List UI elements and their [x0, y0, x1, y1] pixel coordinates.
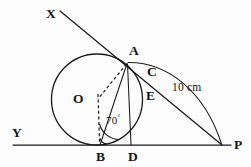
label-point-b: B	[96, 150, 105, 164]
geometry-canvas	[0, 0, 251, 167]
label-point-c: C	[147, 65, 157, 79]
label-point-x: X	[46, 7, 56, 21]
geometry-diagram: X A C E O Y B D P 70° 10 cm	[0, 0, 251, 167]
degree-symbol: °	[117, 113, 120, 121]
label-measure-10cm: 10 cm	[172, 82, 201, 94]
dashed-segment-ob	[98, 94, 100, 144]
label-point-p: P	[234, 138, 242, 152]
label-angle-70: 70°	[106, 114, 120, 126]
dashed-segment-ao	[98, 64, 127, 99]
label-point-o: O	[73, 92, 84, 106]
label-point-e: E	[146, 89, 155, 103]
angle-value: 70	[106, 114, 117, 126]
label-point-y: Y	[12, 126, 22, 140]
label-point-a: A	[129, 44, 139, 58]
line-xp	[60, 11, 222, 145]
label-point-d: D	[128, 150, 138, 164]
